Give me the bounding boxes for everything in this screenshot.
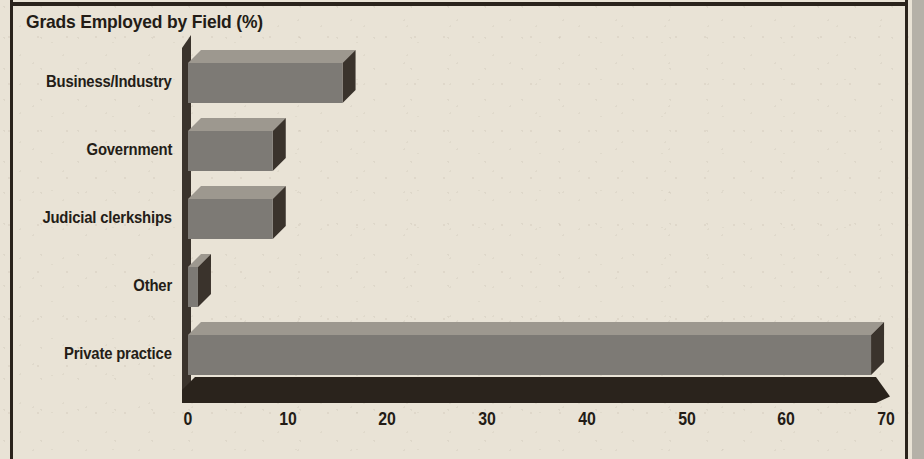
- bar-4: [188, 322, 884, 375]
- x-tick-label: 20: [361, 409, 414, 430]
- bar-3: [188, 254, 211, 307]
- chart-figure: Grads Employed by Field (%) Business/Ind…: [0, 0, 924, 459]
- x-tick-label: 70: [860, 409, 913, 430]
- x-tick-label: 0: [162, 409, 215, 430]
- bar-1: [188, 118, 286, 171]
- x-tick-label: 60: [760, 409, 813, 430]
- category-label: Other: [133, 276, 172, 295]
- category-label: Private practice: [64, 344, 172, 363]
- bar-0: [188, 50, 356, 103]
- category-label: Judicial clerkships: [43, 208, 172, 227]
- x-tick-label: 50: [660, 409, 713, 430]
- x-tick-label: 40: [560, 409, 613, 430]
- bar-2: [188, 186, 286, 239]
- category-label: Business/Industry: [46, 72, 172, 91]
- x-tick-label: 30: [461, 409, 514, 430]
- x-tick-label: 10: [261, 409, 314, 430]
- category-label: Government: [86, 140, 172, 159]
- bar-chart-plot: [0, 0, 924, 459]
